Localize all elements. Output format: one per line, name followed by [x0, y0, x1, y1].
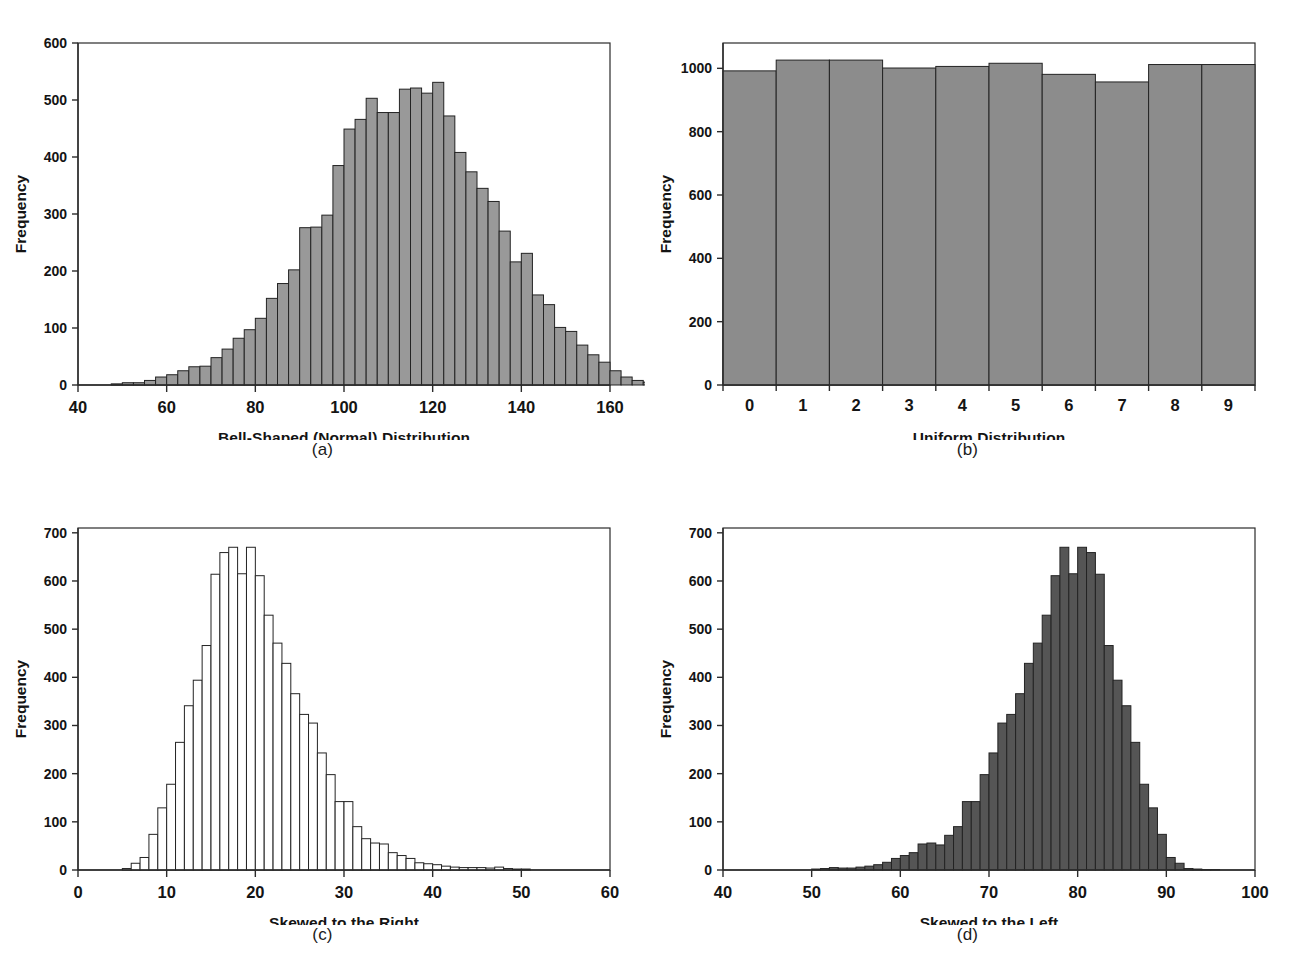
- histogram-bar: [1095, 574, 1104, 870]
- histogram-bar: [555, 327, 566, 385]
- histogram-bar: [1202, 65, 1255, 385]
- histogram-bar: [229, 547, 238, 870]
- histogram-bar: [158, 808, 167, 870]
- histogram-bar: [499, 231, 510, 385]
- histogram-bar: [829, 60, 882, 385]
- histogram-bar: [883, 862, 892, 870]
- histogram-bar: [936, 845, 945, 870]
- histogram-bar: [962, 802, 971, 870]
- histogram-bar: [399, 89, 410, 385]
- histogram-bar: [532, 295, 543, 385]
- histogram-bar: [510, 262, 521, 385]
- histogram-bar: [344, 129, 355, 385]
- histogram-bar: [362, 839, 371, 870]
- histogram-bar: [1016, 694, 1025, 870]
- histogram-bar: [632, 380, 643, 385]
- histogram-b: 020040060080010000123456789Uniform Distr…: [645, 0, 1290, 440]
- x-axis-tick-label: 3: [905, 396, 914, 414]
- histogram-bar: [1042, 615, 1051, 870]
- histogram-bar: [273, 643, 282, 870]
- panel-a-bell-shaped: 0100200300400500600406080100120140160Bel…: [0, 0, 645, 485]
- histogram-bar: [918, 844, 927, 870]
- histogram-bar: [200, 366, 211, 385]
- x-axis-tick-label: 9: [1224, 396, 1233, 414]
- x-axis-tick-label: 5: [1011, 396, 1020, 414]
- histogram-bar: [1149, 808, 1158, 870]
- x-axis-tick-label: 90: [1157, 883, 1175, 901]
- y-axis-tick-label: 600: [689, 187, 713, 203]
- histogram-bar: [989, 63, 1042, 385]
- histogram-bar: [140, 857, 149, 870]
- x-axis-tick-label: 60: [891, 883, 909, 901]
- x-axis-tick-label: 40: [69, 398, 87, 416]
- histogram-bar: [1051, 576, 1060, 870]
- histogram-c: 01002003004005006007000102030405060Skewe…: [0, 485, 645, 925]
- histogram-bar: [544, 305, 555, 385]
- y-axis-tick-label: 200: [44, 766, 68, 782]
- histogram-bar: [444, 116, 455, 385]
- histogram-bar: [211, 574, 220, 870]
- figure-grid: 0100200300400500600406080100120140160Bel…: [0, 0, 1290, 970]
- x-axis-tick-label: 6: [1064, 396, 1073, 414]
- histogram-bar: [300, 228, 311, 385]
- bars-group: [111, 82, 645, 385]
- histogram-bar: [326, 775, 335, 870]
- x-axis-tick-label: 140: [508, 398, 536, 416]
- x-axis-tick-label: 0: [745, 396, 754, 414]
- histogram-bar: [333, 166, 344, 385]
- y-axis-tick-label: 500: [44, 92, 68, 108]
- y-axis-tick-label: 1000: [681, 60, 712, 76]
- histogram-bar: [353, 827, 362, 870]
- y-axis-label: Frequency: [12, 174, 29, 253]
- x-axis-tick-label: 0: [73, 883, 82, 901]
- histogram-bar: [998, 723, 1007, 870]
- histogram-bar: [266, 298, 277, 385]
- histogram-bar: [588, 355, 599, 385]
- histogram-bar: [255, 318, 266, 385]
- histogram-bar: [599, 362, 610, 385]
- y-axis-tick-label: 300: [44, 717, 68, 733]
- histogram-bar: [415, 863, 424, 870]
- histogram-bar: [1175, 863, 1184, 870]
- x-axis-tick-label: 100: [1241, 883, 1269, 901]
- histogram-bar: [1033, 643, 1042, 870]
- bars-group: [122, 547, 530, 870]
- caption-c: (c): [0, 925, 645, 945]
- histogram-bar: [291, 694, 300, 870]
- x-axis-label: Bell-Shaped (Normal) Distribution: [218, 429, 470, 440]
- x-axis-tick-label: 100: [330, 398, 358, 416]
- y-axis-tick-label: 600: [44, 573, 68, 589]
- histogram-bar: [891, 858, 900, 870]
- histogram-bar: [1166, 857, 1175, 870]
- histogram-bar: [131, 863, 140, 870]
- x-axis-tick-label: 80: [246, 398, 264, 416]
- histogram-bar: [1149, 65, 1202, 385]
- x-axis-label: Skewed to the Left: [920, 914, 1059, 925]
- histogram-bar: [246, 547, 255, 870]
- histogram-bar: [900, 856, 909, 870]
- x-axis-tick-label: 40: [423, 883, 441, 901]
- y-axis-tick-label: 400: [689, 250, 713, 266]
- y-axis-tick-label: 200: [689, 766, 713, 782]
- histogram-bar: [255, 576, 264, 870]
- histogram-bar: [311, 227, 322, 385]
- histogram-bar: [455, 152, 466, 385]
- histogram-bar: [466, 172, 477, 385]
- histogram-bar: [397, 856, 406, 870]
- histogram-bar: [1078, 547, 1087, 870]
- histogram-bar: [1113, 680, 1122, 870]
- x-axis-tick-label: 120: [419, 398, 447, 416]
- caption-d: (d): [645, 925, 1290, 945]
- histogram-bar: [1069, 574, 1078, 870]
- x-axis-tick-label: 4: [958, 396, 968, 414]
- y-axis-label: Frequency: [657, 174, 674, 253]
- histogram-bar: [723, 71, 776, 385]
- histogram-bar: [971, 802, 980, 870]
- x-axis-tick-label: 50: [512, 883, 530, 901]
- histogram-bar: [202, 646, 211, 870]
- y-axis-tick-label: 100: [44, 320, 68, 336]
- histogram-bar: [222, 349, 233, 385]
- x-axis-tick-label: 160: [596, 398, 624, 416]
- y-axis-tick-label: 0: [704, 377, 712, 393]
- histogram-bar: [156, 377, 167, 385]
